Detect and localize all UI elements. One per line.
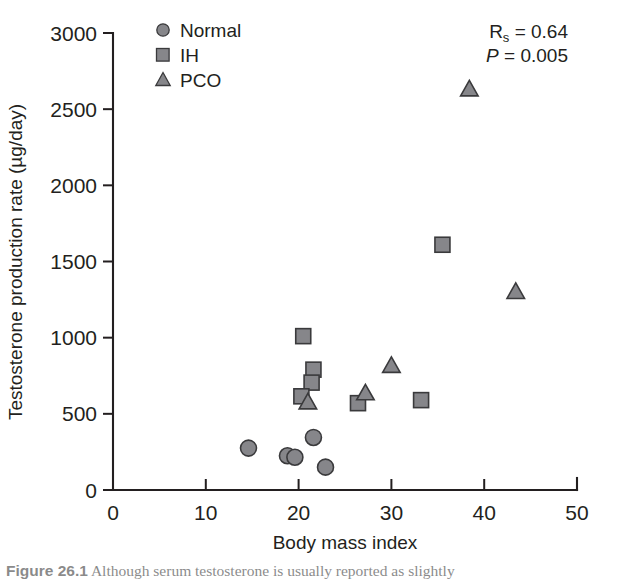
plot-axes	[113, 33, 577, 490]
x-tick-label: 0	[107, 501, 119, 524]
p-value-annotation: P = 0.005	[486, 45, 568, 66]
data-point-layer	[240, 80, 524, 475]
legend: Normal IH PCO	[156, 20, 241, 91]
legend-marker-triangle-icon	[156, 73, 170, 86]
x-axis-ticks	[113, 479, 577, 490]
scatter-plot-figure: 050010001500200025003000 01020304050 Bod…	[0, 0, 617, 560]
y-tick-label: 1000	[50, 326, 97, 349]
y-tick-label: 0	[85, 479, 97, 502]
scatter-plot-svg: 050010001500200025003000 01020304050 Bod…	[0, 0, 617, 560]
legend-marker-square-icon	[157, 49, 170, 62]
statistics-annotation: Rs = 0.64 P = 0.005	[486, 21, 568, 66]
r-symbol: R	[489, 21, 503, 42]
data-point-normal	[240, 440, 256, 456]
y-tick-label: 2000	[50, 174, 97, 197]
data-point-normal	[305, 429, 321, 445]
axis-spines	[113, 33, 577, 490]
data-point-ih	[304, 375, 319, 390]
r-value: = 0.64	[509, 21, 568, 42]
data-point-ih	[414, 393, 429, 408]
p-value: = 0.005	[499, 45, 568, 66]
legend-marker-circle-icon	[157, 24, 169, 36]
data-point-ih	[435, 237, 450, 252]
y-axis-title: Testosterone production rate (µg/day)	[5, 104, 26, 420]
x-tick-label: 20	[287, 501, 310, 524]
x-tick-label: 30	[380, 501, 403, 524]
caption-figure-number: Figure 26.1	[6, 562, 88, 579]
y-tick-label: 500	[62, 402, 97, 425]
spearman-r-annotation: Rs = 0.64	[489, 21, 568, 45]
data-point-pco	[357, 384, 375, 400]
y-tick-label: 2500	[50, 98, 97, 121]
legend-label-normal: Normal	[180, 20, 241, 41]
legend-label-pco: PCO	[180, 70, 221, 91]
figure-page: 050010001500200025003000 01020304050 Bod…	[0, 0, 617, 583]
y-axis-ticks	[103, 33, 113, 490]
y-tick-label: 3000	[50, 22, 97, 45]
data-point-normal	[287, 449, 303, 465]
data-point-pco	[507, 283, 525, 299]
data-point-normal	[318, 459, 334, 475]
y-axis-tick-labels: 050010001500200025003000	[50, 22, 97, 502]
data-point-pco	[383, 357, 401, 373]
x-tick-label: 40	[473, 501, 496, 524]
x-axis-title: Body mass index	[273, 532, 418, 553]
figure-caption: Figure 26.1 Although serum testosterone …	[6, 562, 612, 580]
figure-caption-region: Figure 26.1 Although serum testosterone …	[0, 560, 617, 583]
x-tick-label: 10	[194, 501, 217, 524]
data-point-pco	[461, 80, 479, 96]
p-symbol: P	[486, 45, 499, 66]
data-point-ih	[296, 329, 311, 344]
x-tick-label: 50	[565, 501, 588, 524]
caption-body: Although serum testosterone is usually r…	[91, 562, 455, 579]
legend-label-ih: IH	[180, 45, 199, 66]
y-tick-label: 1500	[50, 250, 97, 273]
x-axis-tick-labels: 01020304050	[107, 501, 589, 524]
